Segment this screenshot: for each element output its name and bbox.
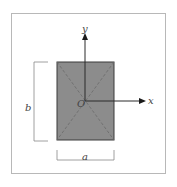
y-axis-label: y (82, 24, 88, 34)
width-dimension-label: a (82, 152, 88, 162)
height-dimension-label: b (25, 103, 31, 113)
height-dimension-bracket (34, 62, 48, 141)
diagram-canvas (0, 0, 177, 187)
x-axis-label: x (148, 96, 154, 106)
x-axis-arrow-icon (139, 98, 146, 104)
y-axis-arrow-icon (82, 33, 88, 40)
origin-label: O (77, 99, 85, 109)
